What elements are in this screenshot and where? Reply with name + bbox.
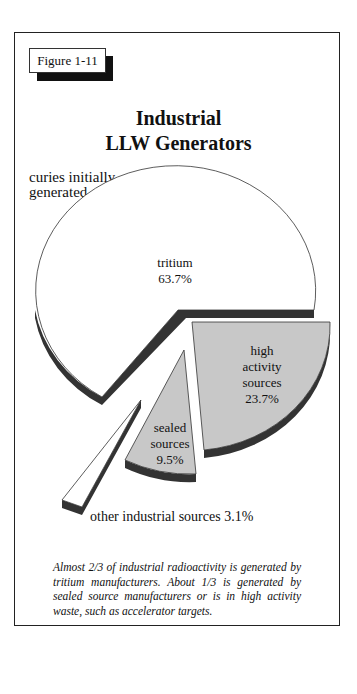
label-tritium-name: tritium xyxy=(120,255,230,271)
label-high-activity-line2: activity xyxy=(222,359,302,375)
figure-caption: Almost 2/3 of industrial radioactivity i… xyxy=(53,560,301,618)
label-high-activity: high activity sources 23.7% xyxy=(222,343,302,407)
label-tritium-value: 63.7% xyxy=(120,271,230,287)
label-high-activity-value: 23.7% xyxy=(222,391,302,407)
label-other: other industrial sources 3.1% xyxy=(90,509,253,525)
label-sealed-value: 9.5% xyxy=(140,452,200,468)
label-tritium: tritium 63.7% xyxy=(120,255,230,287)
label-sealed-line2: sources xyxy=(140,436,200,452)
label-sealed-line1: sealed xyxy=(140,420,200,436)
label-high-activity-line1: high xyxy=(222,343,302,359)
label-high-activity-line3: sources xyxy=(222,375,302,391)
label-sealed: sealed sources 9.5% xyxy=(140,420,200,468)
